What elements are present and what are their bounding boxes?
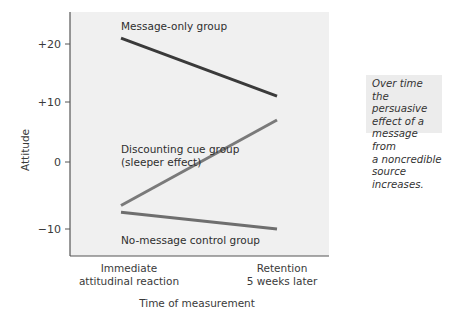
series-label: (sleeper effect) bbox=[121, 156, 201, 168]
y-tick-label: −10 bbox=[38, 223, 61, 236]
y-tick-label: 0 bbox=[54, 156, 61, 169]
y-axis-title: Attitude bbox=[19, 129, 31, 171]
x-category-label: Retention bbox=[257, 262, 308, 274]
x-category-label: Immediate bbox=[101, 262, 158, 274]
series-label: Discounting cue group bbox=[121, 143, 240, 155]
x-category-label: 5 weeks later bbox=[247, 275, 318, 287]
y-tick-label: +20 bbox=[38, 38, 61, 51]
series-label: No-message control group bbox=[121, 234, 260, 246]
y-tick-label: +10 bbox=[38, 96, 61, 109]
series-label: Message-only group bbox=[121, 20, 227, 32]
x-category-labels: Immediateattitudinal reactionRetention5 … bbox=[79, 262, 318, 287]
x-axis-title: Time of measurement bbox=[138, 297, 255, 309]
y-ticks: +20+100−10 bbox=[38, 38, 70, 236]
x-category-label: attitudinal reaction bbox=[79, 275, 179, 287]
annotation-box: Over time the persuasive effect of a mes… bbox=[366, 75, 442, 133]
